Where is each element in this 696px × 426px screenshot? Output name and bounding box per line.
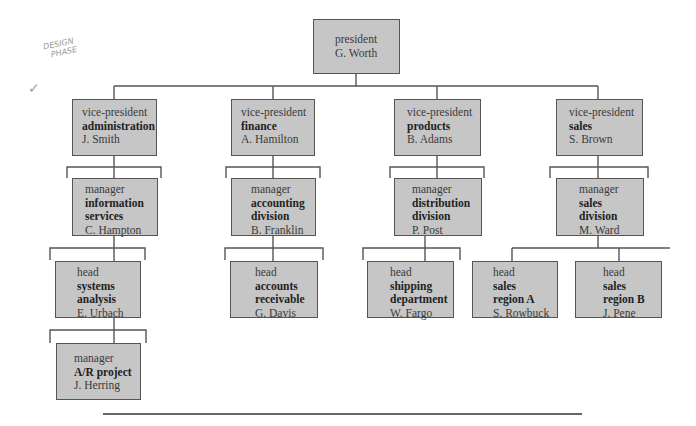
box-department-line2: region B (603, 293, 661, 307)
box-title: vice-president (407, 106, 480, 120)
org-box-manager-accounting-division: manager accounting division B. Franklin (231, 178, 316, 236)
box-title: head (390, 266, 453, 280)
box-title: head (255, 266, 317, 280)
box-department-line2: department (390, 293, 453, 307)
box-title: head (603, 266, 661, 280)
org-box-manager-sales-division: manager sales division M. Ward (556, 178, 644, 236)
box-person: B. Adams (407, 133, 480, 147)
box-department-line2: analysis (77, 293, 140, 307)
box-department-line2: region A (493, 293, 557, 307)
org-box-head-accounts-receivable: head accounts receivable G. Davis (230, 261, 318, 318)
box-title: head (493, 266, 557, 280)
box-title: manager (579, 183, 643, 197)
box-department: products (407, 120, 480, 134)
box-person: B. Franklin (251, 224, 315, 238)
box-department: administration (82, 120, 156, 134)
org-box-manager-information-services: manager information services C. Hampton (72, 178, 158, 236)
org-box-head-shipping-department: head shipping department W. Fargo (367, 261, 454, 318)
box-department-line2: services (85, 210, 157, 224)
org-box-head-sales-region-a: head sales region A S. Rowbuck (472, 261, 558, 318)
box-department: sales (569, 120, 642, 134)
box-person: A. Hamilton (241, 133, 314, 147)
box-person: J. Smith (82, 133, 156, 147)
box-department: A/R project (74, 366, 140, 380)
box-person: G. Worth (335, 47, 399, 61)
box-person: J. Pene (603, 307, 661, 321)
org-box-vp-products: vice-president products B. Adams (394, 99, 481, 156)
box-person: J. Herring (74, 379, 140, 393)
box-person: W. Fargo (390, 307, 453, 321)
box-title: manager (85, 183, 157, 197)
box-title: president (335, 33, 399, 47)
box-title: manager (412, 183, 481, 197)
org-box-vp-sales: vice-president sales S. Brown (556, 99, 643, 156)
box-person: C. Hampton (85, 224, 157, 238)
box-title: manager (251, 183, 315, 197)
box-person: P. Post (412, 224, 481, 238)
org-box-manager-ar-project: manager A/R project J. Herring (56, 343, 141, 400)
box-department: finance (241, 120, 314, 134)
box-department: sales (603, 280, 661, 294)
box-title: vice-president (82, 106, 156, 120)
box-title: vice-president (569, 106, 642, 120)
box-department: sales (579, 197, 643, 211)
box-department: accounting (251, 197, 315, 211)
box-person: M. Ward (579, 224, 643, 238)
box-person: S. Rowbuck (493, 307, 557, 321)
box-department: accounts (255, 280, 317, 294)
box-department-line2: receivable (255, 293, 317, 307)
box-department-line2: division (251, 210, 315, 224)
box-department: distribution (412, 197, 481, 211)
org-box-head-systems-analysis: head systems analysis E. Urbach (55, 261, 141, 318)
org-box-vp-administration: vice-president administration J. Smith (72, 99, 157, 156)
box-department: information (85, 197, 157, 211)
box-title: vice-president (241, 106, 314, 120)
org-box-vp-finance: vice-president finance A. Hamilton (231, 99, 315, 156)
box-department: systems (77, 280, 140, 294)
box-title: head (77, 266, 140, 280)
box-title: manager (74, 352, 140, 366)
org-box-head-sales-region-b: head sales region B J. Pene (575, 261, 662, 318)
org-box-manager-distribution-division: manager distribution division P. Post (394, 178, 482, 236)
box-department: sales (493, 280, 557, 294)
box-person: G. Davis (255, 307, 317, 321)
box-department-line2: division (412, 210, 481, 224)
box-person: E. Urbach (77, 307, 140, 321)
box-department: shipping (390, 280, 453, 294)
org-box-president: president G. Worth (313, 19, 400, 74)
box-person: S. Brown (569, 133, 642, 147)
box-department-line2: division (579, 210, 643, 224)
